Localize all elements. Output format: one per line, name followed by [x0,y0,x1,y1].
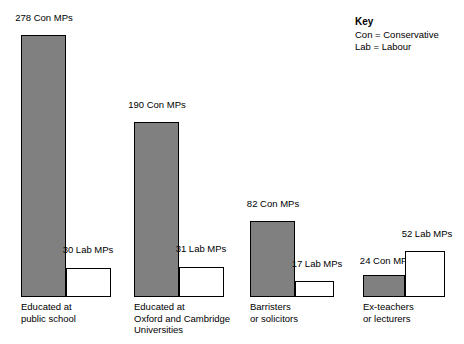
category-label-g3-line2: or solicitors [250,313,360,325]
bar-value-label-g3-con: 82 Con MPs [245,198,301,209]
bar-value-label-g1-con-line1: 278 Con [15,12,51,23]
bar-g3-con [250,221,295,297]
bar-value-label-g1-con: 278 Con MPs [13,12,75,23]
bar-g1-con [21,35,66,297]
bar-value-label-g2-con-line2: MPs [167,99,186,110]
category-label-g4-line2: or lecturers [363,313,463,325]
bar-g2-con [134,122,179,297]
category-label-g2: Educated at Oxford and Cambridge Univers… [134,301,264,336]
category-label-g4: Ex-teachers or lecturers [363,301,463,324]
bar-value-label-g4-lab-line2: MPs [433,228,452,239]
bar-value-label-g2-lab-line1: 31 Lab [176,243,205,254]
bar-g4-lab [405,251,445,297]
key-entry-con: Con = Conservative [355,29,460,41]
bar-g1-lab [66,268,111,297]
bar-value-label-g2-lab: 31 Lab MPs [175,243,227,254]
category-label-g3: Barristers or solicitors [250,301,360,324]
bar-value-label-g3-lab: 17 Lab MPs [291,258,343,269]
bar-value-label-g4-con-line1: 24 Con [360,255,391,266]
bar-value-label-g4-lab-line1: 52 Lab [402,228,431,239]
chart-key: Key Con = Conservative Lab = Labour [355,16,460,53]
key-entry-lab: Lab = Labour [355,41,460,53]
bar-g2-lab [179,267,224,297]
bar-value-label-g2-con-line1: 190 Con [128,99,164,110]
bar-value-label-g3-lab-line2: MPs [323,258,342,269]
bar-value-label-g1-lab-line2: MPs [94,244,113,255]
category-label-g1-line1: Educated at [21,301,131,313]
category-label-g2-line1: Educated at [134,301,264,313]
bar-value-label-g3-con-line2: MPs [280,198,299,209]
bar-value-label-g1-con-line2: MPs [54,12,73,23]
category-label-g2-line2: Oxford and Cambridge [134,313,264,325]
bar-g3-lab [295,281,334,297]
key-title: Key [355,16,460,28]
bar-value-label-g3-lab-line1: 17 Lab [292,258,321,269]
category-label-g3-line1: Barristers [250,301,360,313]
bar-value-label-g4-lab: 52 Lab MPs [401,228,453,239]
bar-g4-con [363,275,405,297]
bar-value-label-g1-lab: 30 Lab MPs [62,244,114,255]
bar-value-label-g3-con-line1: 82 Con [247,198,278,209]
category-label-g4-line1: Ex-teachers [363,301,463,313]
bar-value-label-g2-con: 190 Con MPs [126,99,188,110]
bar-chart: Key Con = Conservative Lab = Labour 278 … [0,0,464,344]
category-label-g1: Educated at public school [21,301,131,324]
category-label-g2-line3: Universities [134,324,264,336]
bar-value-label-g2-lab-line2: MPs [207,243,226,254]
category-label-g1-line2: public school [21,313,131,325]
bar-value-label-g1-lab-line1: 30 Lab [63,244,92,255]
